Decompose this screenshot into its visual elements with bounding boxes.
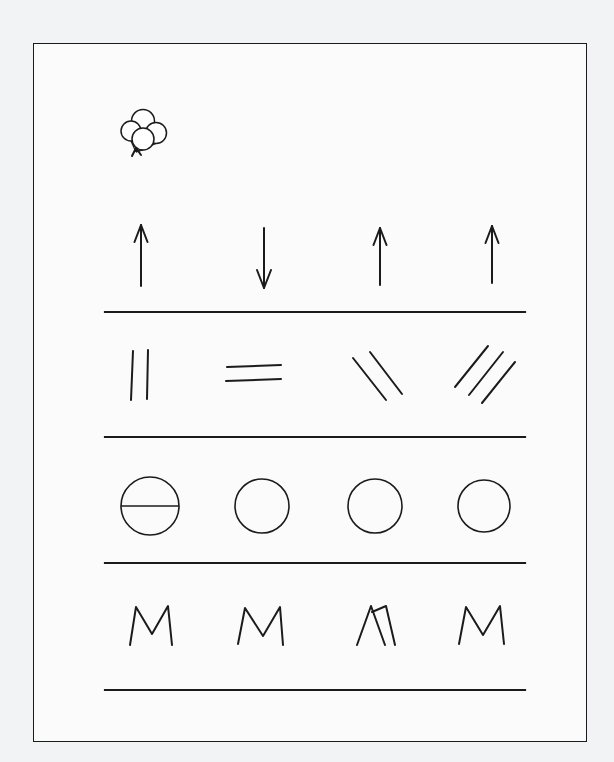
letter-m-4[interactable] bbox=[451, 598, 512, 652]
letter-m-3[interactable] bbox=[349, 598, 403, 653]
letter-m-2[interactable] bbox=[230, 599, 291, 653]
circle-plain-3[interactable] bbox=[452, 474, 516, 538]
forwardslash-strokes[interactable] bbox=[447, 338, 523, 411]
backslash-strokes[interactable] bbox=[345, 344, 410, 408]
circle-plain-1[interactable] bbox=[229, 473, 295, 539]
horizontal-strokes[interactable] bbox=[218, 357, 289, 389]
arrow-up-3[interactable] bbox=[476, 220, 508, 289]
arrow-down-1[interactable] bbox=[248, 222, 280, 294]
arrow-row bbox=[135, 225, 499, 288]
balloon-cluster[interactable] bbox=[122, 102, 176, 158]
arrow-up-2[interactable] bbox=[364, 222, 396, 291]
worksheet-page bbox=[0, 0, 614, 762]
circle-with-diameter[interactable] bbox=[115, 471, 185, 541]
letter-row bbox=[130, 606, 504, 645]
arrow-up-1[interactable] bbox=[125, 219, 157, 292]
circle-plain-2[interactable] bbox=[342, 473, 408, 539]
letter-m-1[interactable] bbox=[122, 598, 180, 653]
vertical-strokes[interactable] bbox=[123, 342, 156, 408]
